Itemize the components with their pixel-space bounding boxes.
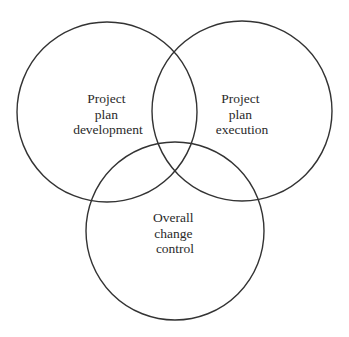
label-execution: Project plan execution: [216, 91, 269, 137]
label-development: Project plan development: [73, 91, 143, 137]
venn-diagram: Project plan development Project plan ex…: [0, 0, 349, 337]
label-change-control: Overall change control: [153, 210, 197, 256]
